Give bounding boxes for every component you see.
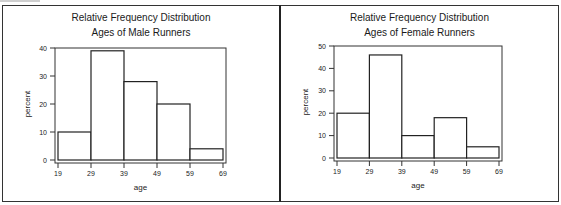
x-tick-label: 59 [186, 170, 194, 177]
y-axis-label: percent [301, 88, 310, 115]
top-edge-line [0, 0, 40, 2]
y-tick-label: 20 [39, 101, 47, 108]
histogram-bar [402, 136, 434, 158]
histogram-plot: 01020304050192939495969agepercent [281, 6, 557, 201]
y-tick-label: 0 [43, 157, 47, 164]
chart-panel-female: Relative Frequency Distribution Ages of … [281, 5, 559, 202]
chart-panel-male: Relative Frequency Distribution Ages of … [2, 5, 281, 202]
x-tick-label: 49 [153, 170, 161, 177]
y-tick-label: 0 [322, 155, 326, 162]
x-tick-label: 39 [398, 168, 406, 175]
histogram-bar [467, 147, 499, 158]
histogram-bar [91, 51, 124, 160]
histogram-bar [369, 55, 401, 158]
histogram-plot: 010203040192939495969agepercent [3, 6, 280, 201]
y-tick-label: 10 [39, 129, 47, 136]
histogram-bar [157, 104, 190, 160]
histogram-bar [337, 113, 369, 158]
y-tick-label: 30 [318, 87, 326, 94]
y-tick-label: 50 [318, 43, 326, 50]
x-axis-label: age [411, 181, 425, 190]
x-tick-label: 49 [430, 168, 438, 175]
y-tick-label: 40 [318, 65, 326, 72]
x-tick-label: 29 [87, 170, 95, 177]
x-tick-label: 19 [54, 170, 62, 177]
histogram-bar [190, 149, 223, 160]
histogram-bar [124, 82, 157, 160]
x-tick-label: 29 [366, 168, 374, 175]
x-tick-label: 19 [333, 168, 341, 175]
x-tick-label: 69 [495, 168, 503, 175]
x-tick-label: 69 [219, 170, 227, 177]
y-tick-label: 40 [39, 45, 47, 52]
histogram-bar [434, 118, 466, 158]
histogram-bar [58, 132, 91, 160]
y-tick-label: 30 [39, 73, 47, 80]
y-tick-label: 10 [318, 132, 326, 139]
x-axis-label: age [134, 183, 148, 192]
y-tick-label: 20 [318, 110, 326, 117]
x-tick-label: 59 [463, 168, 471, 175]
x-tick-label: 39 [120, 170, 128, 177]
y-axis-label: percent [23, 90, 32, 117]
